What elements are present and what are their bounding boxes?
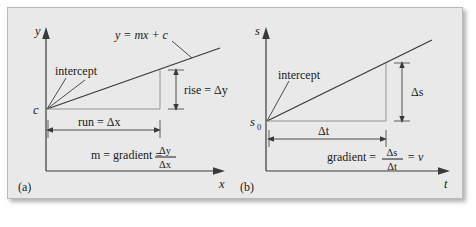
gradient-denominator-b: Δt bbox=[387, 161, 397, 172]
rise-label-a: rise = Δy bbox=[184, 83, 228, 97]
t-axis-label-b: t bbox=[444, 177, 448, 191]
panel-caption-b: (b) bbox=[240, 180, 254, 194]
gradient-formula-lead-b: gradient = bbox=[327, 150, 376, 164]
graph-panel-a: y x intercept c y = mx + c rise = Δy run… bbox=[8, 8, 236, 198]
delta-s-label-b: Δs bbox=[411, 85, 424, 99]
gradient-numerator-a: Δy bbox=[159, 145, 172, 156]
line-y-mx-c bbox=[47, 48, 220, 109]
t-axis-b bbox=[266, 167, 450, 175]
intercept-value-symbol-b: s bbox=[250, 115, 255, 129]
delta-t-label-b: Δt bbox=[318, 124, 330, 138]
rise-measure-arrow-a bbox=[168, 68, 184, 111]
intercept-label-a: intercept bbox=[55, 64, 98, 78]
equation-leader-line bbox=[172, 41, 192, 58]
gradient-numerator-b: Δs bbox=[387, 147, 398, 158]
s-axis-label-b: s bbox=[255, 24, 260, 38]
gradient-formula-b: gradient = Δs Δt = v bbox=[327, 147, 424, 172]
intercept-label-b: intercept bbox=[278, 68, 321, 82]
y-axis-a bbox=[42, 27, 50, 171]
y-axis-label-a: y bbox=[33, 24, 41, 38]
x-axis-a bbox=[46, 167, 225, 175]
figure-root: y x intercept c y = mx + c rise = Δy run… bbox=[0, 0, 476, 227]
intercept-leader-lines-a bbox=[47, 78, 85, 109]
gradient-formula-lead-a: m = gradient = bbox=[91, 148, 162, 162]
gradient-formula-a: m = gradient = Δy Δx bbox=[91, 145, 176, 170]
run-label-a: run = Δx bbox=[78, 115, 120, 129]
s-axis-b bbox=[262, 27, 270, 171]
graph-panel-b: s t intercept s 0 Δs Δt gradient = Δs Δt… bbox=[234, 8, 462, 198]
gradient-denominator-a: Δx bbox=[159, 159, 172, 170]
delta-s-measure-arrow-b bbox=[394, 61, 410, 123]
intercept-value-label-a: c bbox=[33, 103, 39, 117]
intercept-value-label-b: s 0 bbox=[250, 115, 261, 132]
panel-caption-a: (a) bbox=[18, 180, 31, 194]
gradient-formula-tail-b: = v bbox=[407, 150, 424, 164]
intercept-value-subscript-b: 0 bbox=[257, 122, 261, 132]
figure-panel: y x intercept c y = mx + c rise = Δy run… bbox=[7, 7, 463, 199]
line-equation-label-a: y = mx + c bbox=[114, 28, 169, 42]
x-axis-label-a: x bbox=[218, 177, 225, 191]
